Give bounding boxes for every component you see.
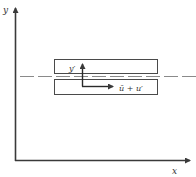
y-axis-label: y — [2, 5, 9, 15]
y-prime-label: y′ — [68, 64, 76, 73]
diagram-canvas: y x y′ ū + u′ — [0, 0, 196, 177]
x-axis-label: x — [172, 166, 177, 176]
velocity-label: ū + u′ — [119, 84, 143, 93]
diagram-svg: y x y′ ū + u′ — [0, 0, 196, 177]
